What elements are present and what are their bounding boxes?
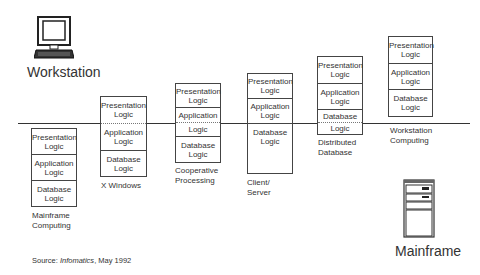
network-line — [18, 123, 470, 124]
server-tower-icon — [403, 179, 435, 239]
model-cooperative-processing: PresentationLogic Application Logic Data… — [175, 83, 221, 163]
label-client-server: Client/Server — [247, 178, 271, 197]
computer-monitor-icon — [34, 16, 74, 61]
label-cooperative-processing: CooperativeProcessing — [175, 166, 218, 185]
model-workstation-computing: PresentationLogic ApplicationLogic Datab… — [388, 36, 433, 117]
model-client-server: PresentationLogic ApplicationLogic Datab… — [247, 97, 293, 174]
label-workstation-computing: WorkstationComputing — [390, 126, 432, 145]
label-distributed-database: DistributedDatabase — [318, 138, 356, 157]
label-x-windows: X Windows — [101, 181, 141, 191]
source-citation: Source: Infomatics, May 1992 — [32, 256, 131, 265]
model-x-windows: PresentationLogic ApplicationLogic Datab… — [100, 96, 147, 177]
model-mainframe-computing: PresentationLogic ApplicationLogic Datab… — [31, 128, 77, 207]
label-mainframe-computing: MainframeComputing — [32, 211, 71, 230]
mainframe-label: Mainframe — [395, 243, 461, 259]
model-distributed-database: PresentationLogic ApplicationLogic Datab… — [317, 56, 363, 135]
workstation-label: Workstation — [27, 64, 101, 80]
